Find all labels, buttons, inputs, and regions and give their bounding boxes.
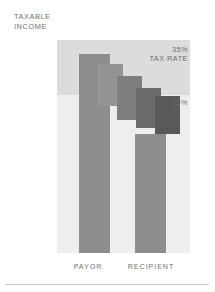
x-label-payor: PAYOR	[64, 262, 112, 271]
plot-area	[57, 40, 190, 253]
bottom-divider	[6, 284, 209, 285]
bar-recipient	[135, 134, 166, 253]
y-axis-title: TAXABLE INCOME	[14, 12, 51, 31]
tax-rate-bar-chart: TAXABLE INCOME $100,000 80,000 60,000 40…	[0, 0, 215, 292]
x-label-recipient: RECIPIENT	[120, 262, 182, 271]
annotation-35-percent-tax-rate: 35% TAX RATE	[149, 45, 188, 64]
annotation-10-percent: 10%	[172, 98, 188, 107]
